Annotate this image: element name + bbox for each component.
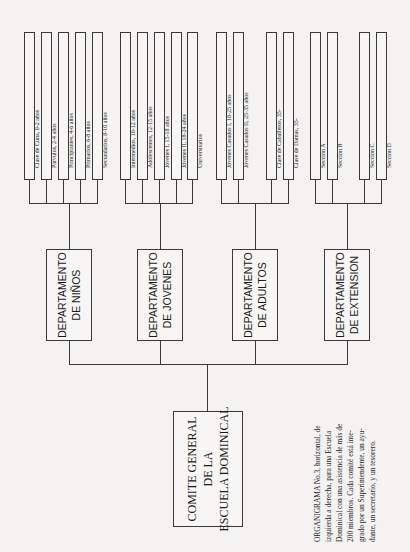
connector-line: [255, 203, 256, 249]
committee-label-line: ESCUELA DOMINICAL: [216, 407, 232, 532]
department-box-ninos: DEPARTAMENTO DE NIÑOS: [46, 249, 92, 341]
connector-line: [63, 180, 64, 203]
class-box-damas: Clase de Damas, 35-: [283, 32, 294, 180]
connector-line: [255, 341, 256, 364]
connector-line: [192, 180, 193, 203]
connector-line: [364, 180, 365, 203]
figure-caption: ORGANIGRAMA No.3, horizontal, de izquier…: [312, 392, 378, 542]
connector-line: [347, 341, 348, 364]
department-label-line: DEPARTAMENTO: [333, 252, 347, 338]
connector-line: [97, 180, 98, 203]
connector-line: [159, 180, 160, 203]
committee-label-line: DE LA: [200, 407, 216, 532]
class-label: Intermedios, 10-12 años: [130, 110, 137, 168]
connector-line: [69, 341, 70, 364]
class-box-cuna: Clase de Cuna, 0-2 años: [24, 32, 35, 180]
connector-line: [315, 180, 316, 203]
connector-line: [176, 180, 177, 203]
department-label-line: DE NIÑOS: [69, 252, 83, 338]
connector-line: [46, 180, 47, 203]
caption-line: grado por un Superintendente, un ayu-: [356, 392, 367, 542]
class-label: Primarios, 6-8 años: [85, 121, 92, 168]
department-label-line: DE EXTENSION: [347, 252, 361, 338]
class-box-caballeros: Clase de Caballeros, 35-: [266, 32, 277, 180]
class-box-parvulos: Párvulos, 2-4 años: [41, 32, 52, 180]
bus-line-ninos: [29, 203, 98, 204]
class-label: Jóvenes I, 15-18 años: [164, 116, 171, 168]
connector-line: [221, 180, 222, 203]
committee-box: COMITE GENERAL DE LA ESCUELA DOMINICAL: [173, 411, 243, 527]
department-label-line: DE ADULTOS: [255, 252, 269, 338]
connector-line: [160, 341, 161, 364]
class-label: Sección B: [337, 144, 344, 169]
connector-line: [160, 203, 161, 249]
bus-line-jovenes: [125, 203, 193, 204]
department-label: DEPARTAMENTO DE NIÑOS: [55, 252, 83, 338]
department-label-line: DEPARTAMENTO: [55, 252, 69, 338]
class-label: Clase de Cuna, 0-2 años: [34, 110, 41, 168]
connector-line: [332, 180, 333, 203]
department-box-adultos: DEPARTAMENTO DE ADULTOS: [232, 249, 278, 341]
class-label: Sección A: [320, 144, 327, 169]
main-bus-line: [69, 364, 348, 365]
department-label: DEPARTAMENTO DE ADULTOS: [241, 252, 269, 338]
class-box-intermedios: Intermedios, 10-12 años: [120, 32, 131, 180]
class-label: Sección C: [369, 144, 376, 169]
department-label-line: DEPARTAMENTO: [241, 252, 255, 338]
department-label: DEPARTAMENTO DE EXTENSION: [333, 252, 361, 338]
class-label: Jóvenes Casados II, 25-35 años: [243, 93, 250, 169]
department-label-line: DEPARTAMENTO: [146, 252, 160, 338]
class-label: Universitarios: [197, 134, 204, 168]
class-box-principiantes: Principiantes, 4-6 años: [58, 32, 69, 180]
class-label: Sección D: [386, 143, 393, 168]
class-box-seccion-d: Sección D: [376, 32, 387, 180]
department-box-jovenes: DEPARTAMENTO DE JOVENES: [137, 249, 183, 341]
class-label: Principiantes, 4-6 años: [68, 113, 75, 168]
class-box-jovenes-2: Jóvenes II, 18-24 años: [171, 32, 182, 180]
class-box-universitarios: Universitarios: [187, 32, 198, 180]
caption-line: izquierda a derecha, para una Escuela: [323, 392, 334, 542]
class-box-seccion-a: Sección A: [310, 32, 321, 180]
class-label: Secundarios, 8-10 años: [102, 112, 109, 168]
class-label: Adolescentes, 12-15 años: [147, 107, 154, 169]
class-box-seccion-b: Sección B: [327, 32, 338, 180]
root-connector-line: [207, 364, 208, 411]
connector-line: [271, 180, 272, 203]
class-box-casados-2: Jóvenes Casados II, 25-35 años: [233, 32, 244, 180]
caption-line: dante, un secretario, y un tesorero.: [367, 392, 378, 542]
connector-line: [29, 180, 30, 203]
department-box-extension: DEPARTAMENTO DE EXTENSION: [324, 249, 370, 341]
committee-label-line: COMITE GENERAL: [184, 407, 200, 532]
bus-line-extension: [315, 203, 382, 204]
department-label: DEPARTAMENTO DE JOVENES: [146, 252, 174, 338]
department-label-line: DE JOVENES: [160, 252, 174, 338]
committee-label: COMITE GENERAL DE LA ESCUELA DOMINICAL: [184, 407, 232, 532]
class-label: Párvulos, 2-4 años: [51, 124, 58, 169]
connector-line: [80, 180, 81, 203]
connector-line: [347, 203, 348, 249]
class-label: Clase de Damas, 35-: [293, 118, 300, 168]
connector-line: [125, 180, 126, 203]
connector-line: [142, 180, 143, 203]
connector-line: [288, 180, 289, 203]
class-box-jovenes-1: Jóvenes I, 15-18 años: [154, 32, 165, 180]
class-box-primarios: Primarios, 6-8 años: [75, 32, 86, 180]
class-box-adolescentes: Adolescentes, 12-15 años: [137, 32, 148, 180]
caption-line: Dominical con una asistencia de más de: [334, 392, 345, 542]
connector-line: [69, 203, 70, 249]
connector-line: [381, 180, 382, 203]
class-box-seccion-c: Sección C: [359, 32, 370, 180]
class-box-secundarios: Secundarios, 8-10 años: [92, 32, 103, 180]
class-box-casados-1: Jóvenes Casados I, 18-25 años: [216, 32, 227, 180]
class-label: Clase de Caballeros, 35-: [276, 109, 283, 168]
connector-line: [238, 180, 239, 203]
caption-line: 200 miembros. Cada comité está inte-: [345, 392, 356, 542]
caption-line: ORGANIGRAMA No.3, horizontal, de: [312, 392, 323, 542]
class-label: Jóvenes Casados I, 18-25 años: [226, 95, 233, 169]
